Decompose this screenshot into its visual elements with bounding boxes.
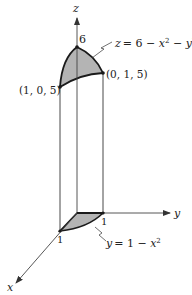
surface-equation: z= 6 − x2 − y2 (114, 37, 192, 50)
z-axis-label: z (72, 2, 79, 15)
peak-label: 6 (79, 33, 86, 46)
curve-leader-line (95, 227, 106, 241)
top-surface-patch (60, 47, 103, 87)
tick-y-one: 1 (101, 216, 107, 227)
x-axis (16, 213, 77, 283)
surface-leader-line (92, 42, 112, 58)
y-axis-label: y (173, 207, 181, 220)
point-y-one (101, 211, 104, 214)
base-curve-equation: y= 1 − x2 (105, 237, 161, 250)
tick-x-one: 1 (57, 234, 63, 245)
solid-region-diagram: z y x 6 (0, 1, 5) (1, 0, 5) 1 1 z= 6 − x… (0, 0, 192, 295)
point-0-1-5 (101, 71, 105, 75)
point-x-one (58, 229, 61, 232)
label-0-1-5: (0, 1, 5) (106, 68, 148, 80)
label-1-0-5: (1, 0, 5) (19, 84, 61, 96)
x-axis-label: x (7, 281, 14, 294)
